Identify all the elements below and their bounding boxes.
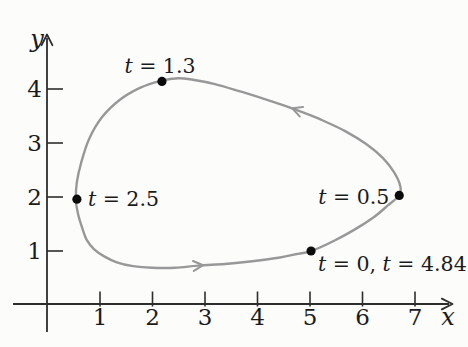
- x-tick-label: 1: [93, 304, 108, 330]
- y-axis-label: y: [29, 25, 44, 53]
- x-tick-label: 7: [408, 304, 423, 330]
- x-tick-label: 2: [145, 304, 160, 330]
- x-axis-label: x: [441, 303, 455, 331]
- y-tick-label: 3: [27, 130, 42, 156]
- x-tick-label: 4: [250, 304, 265, 330]
- x-tick-label: 3: [198, 304, 213, 330]
- y-tick-label: 2: [27, 184, 42, 210]
- parametric-curve-figure: 12345671234yxt = 1.3t = 2.5t = 0.5t = 0,…: [0, 0, 468, 347]
- point-label: t = 0, t = 4.84: [318, 252, 467, 276]
- curve-point-dot: [72, 195, 81, 204]
- curve-point-dot: [395, 191, 404, 200]
- point-label: t = 1.3: [124, 54, 195, 78]
- y-tick-label: 4: [27, 76, 42, 102]
- x-tick-label: 5: [303, 304, 318, 330]
- point-label: t = 2.5: [88, 187, 159, 211]
- x-tick-label: 6: [355, 304, 370, 330]
- y-tick-label: 1: [27, 238, 42, 264]
- point-label: t = 0.5: [318, 185, 389, 209]
- parametric-curve: [76, 78, 401, 268]
- curve-point-dot: [306, 246, 315, 255]
- plot-svg: 12345671234yxt = 1.3t = 2.5t = 0.5t = 0,…: [0, 0, 468, 347]
